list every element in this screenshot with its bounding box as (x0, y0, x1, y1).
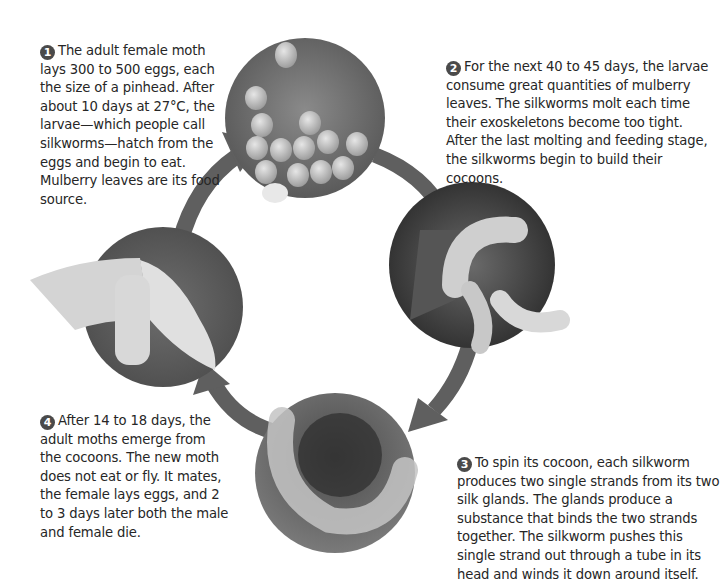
cocoon-photo (255, 393, 415, 553)
stage-1-text: The adult female moth lays 300 to 500 eg… (40, 43, 220, 207)
step-badge-1: 1 (40, 45, 55, 60)
stage-1-caption: 1The adult female moth lays 300 to 500 e… (40, 42, 230, 209)
step-badge-2: 2 (446, 61, 461, 76)
stage-2-text: For the next 40 to 45 days, the larvae c… (446, 59, 708, 186)
step-badge-3: 3 (457, 457, 472, 472)
larvae-photo (389, 182, 560, 348)
eggs-photo (225, 38, 385, 203)
moth-photo (30, 227, 243, 387)
step-badge-4: 4 (40, 415, 55, 430)
stage-4-caption: 4After 14 to 18 days, the adult moths em… (40, 412, 230, 542)
arrow-larvae-to-cocoon (428, 342, 478, 415)
stage-3-text: To spin its cocoon, each silkworm produc… (457, 455, 719, 582)
stage-3-caption: 3To spin its cocoon, each silkworm produ… (457, 454, 723, 583)
stage-2-caption: 2For the next 40 to 45 days, the larvae … (446, 58, 716, 188)
stage-4-text: After 14 to 18 days, the adult moths eme… (40, 413, 228, 540)
